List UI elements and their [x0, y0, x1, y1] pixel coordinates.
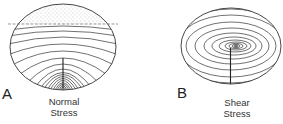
normal-stress-ellipse [8, 3, 118, 90]
panel-label-a: A [2, 86, 12, 101]
panel-label-b: B [177, 85, 187, 100]
shear-stress-ellipse [169, 8, 283, 84]
caption-line-2: Stress [34, 108, 94, 119]
caption-line-1: Shear [207, 98, 267, 109]
caption-normal-stress: Normal Stress [34, 97, 94, 118]
caption-line-2: Stress [207, 109, 267, 120]
caption-line-1: Normal [34, 97, 94, 108]
caption-shear-stress: Shear Stress [207, 98, 267, 119]
